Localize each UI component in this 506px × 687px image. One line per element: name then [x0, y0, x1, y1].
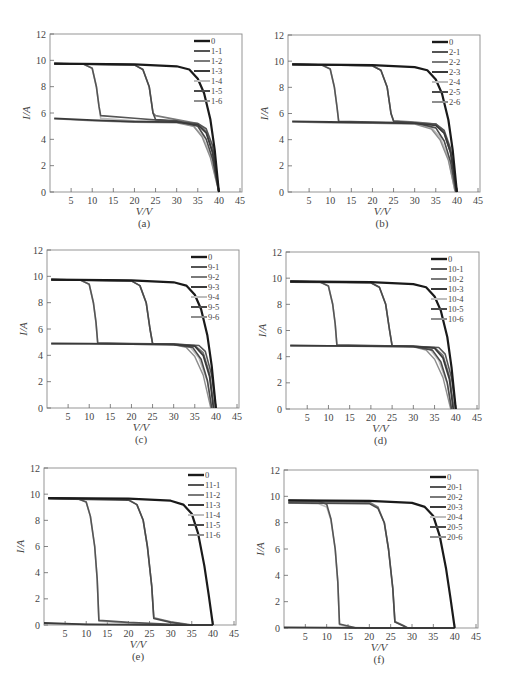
x-axis-label: V/V [136, 205, 154, 217]
legend-label: 1-1 [211, 46, 222, 56]
panel-caption: (d) [374, 434, 387, 447]
x-tick-label: 30 [172, 195, 182, 206]
legend-label: 20-6 [447, 532, 463, 542]
x-tick-label: 30 [166, 628, 176, 639]
legend-label: 20-3 [447, 502, 463, 512]
y-axis-label: I/A [256, 324, 268, 339]
x-tick-label: 10 [325, 195, 335, 206]
legend-label: 1-2 [211, 56, 222, 66]
series-line-20-5 [288, 503, 407, 628]
legend-label: 1-5 [211, 86, 222, 96]
y-tick-label: 12 [30, 463, 40, 474]
legend-label: 10-6 [448, 314, 464, 324]
y-tick-label: 6 [35, 541, 40, 552]
y-tick-label: 6 [277, 325, 282, 336]
x-tick-label: 45 [473, 195, 483, 206]
x-tick-label: 35 [187, 628, 197, 639]
x-tick-label: 10 [87, 195, 97, 206]
x-tick-label: 15 [105, 411, 115, 422]
x-tick-label: 35 [428, 631, 438, 642]
x-tick-label: 15 [102, 628, 112, 639]
x-tick-label: 5 [303, 631, 308, 642]
x-tick-label: 30 [410, 195, 420, 206]
y-tick-label: 12 [36, 29, 46, 40]
y-tick-label: 0 [279, 187, 284, 198]
series-line-20-4 [288, 503, 356, 628]
y-tick-label: 10 [270, 491, 280, 502]
y-tick-label: 8 [277, 299, 282, 310]
series-line-11-1 [48, 498, 187, 625]
x-tick-label: 5 [69, 195, 74, 206]
legend-label: 11-4 [205, 510, 221, 520]
y-tick-label: 12 [270, 465, 280, 476]
y-tick-label: 0 [275, 623, 280, 634]
legend-label: 0 [448, 254, 452, 264]
legend-label: 0 [205, 470, 209, 480]
x-axis-label: V/V [372, 422, 390, 434]
legend: 020-120-220-320-420-520-6 [430, 472, 463, 542]
y-tick-label: 8 [279, 82, 284, 93]
y-tick-label: 12 [274, 30, 284, 41]
y-tick-label: 6 [38, 324, 43, 335]
y-axis-label: I/A [17, 322, 29, 337]
x-axis-label: V/V [371, 641, 389, 653]
y-tick-label: 6 [279, 108, 284, 119]
y-tick-label: 10 [36, 55, 46, 66]
legend-label: 2-5 [449, 87, 460, 97]
legend-label: 20-5 [447, 522, 463, 532]
y-tick-label: 8 [275, 517, 280, 528]
x-axis-label: V/V [133, 421, 151, 433]
y-tick-label: 4 [35, 567, 40, 578]
y-tick-label: 4 [41, 134, 46, 145]
series-line-2-3 [292, 121, 457, 192]
y-tick-label: 8 [38, 297, 43, 308]
legend-label: 11-5 [205, 520, 220, 530]
y-axis-label: I/A [258, 107, 270, 122]
x-tick-label: 40 [452, 195, 462, 206]
series-line-10-3 [290, 346, 453, 410]
legend-label: 10-2 [448, 274, 464, 284]
x-tick-label: 10 [323, 412, 333, 423]
x-tick-label: 35 [430, 412, 440, 423]
legend-label: 9-3 [208, 282, 219, 292]
y-axis-label: I/A [20, 106, 32, 121]
chart-panel-d: 02468101251015202530354045I/AV/V(d)010-1… [256, 247, 482, 448]
x-tick-label: 45 [232, 411, 242, 422]
x-tick-label: 40 [451, 412, 461, 423]
x-tick-label: 5 [305, 412, 310, 423]
y-tick-label: 6 [275, 544, 280, 555]
x-tick-label: 15 [345, 412, 355, 423]
legend-label: 1-4 [211, 76, 223, 86]
x-tick-label: 30 [408, 412, 418, 423]
x-tick-label: 45 [472, 412, 482, 423]
x-tick-label: 5 [307, 195, 312, 206]
y-tick-label: 2 [41, 160, 46, 171]
series-line-20-1 [288, 500, 356, 628]
legend-label: 10-5 [448, 304, 464, 314]
chart-panel-f: 02468101251015202530354045I/AV/V(f)020-1… [254, 465, 481, 667]
y-tick-label: 8 [41, 81, 46, 92]
x-tick-label: 5 [63, 628, 68, 639]
legend-label: 11-1 [205, 480, 220, 490]
x-tick-label: 45 [229, 628, 239, 639]
legend: 010-110-210-310-410-510-6 [431, 254, 464, 324]
panel-caption: (f) [374, 653, 385, 666]
legend-label: 10-1 [448, 264, 464, 274]
y-tick-label: 2 [275, 596, 280, 607]
series-line-9-6 [51, 344, 211, 408]
x-tick-label: 35 [190, 411, 200, 422]
legend-label: 11-6 [205, 530, 220, 540]
y-tick-label: 2 [279, 160, 284, 171]
chart-panel-b: 02468101251015202530354045I/AV/V(b)02-12… [258, 30, 483, 231]
legend-label: 2-4 [449, 77, 461, 87]
y-tick-label: 0 [277, 404, 282, 415]
series-line-11-4 [48, 498, 187, 625]
series-line-1-3 [54, 118, 219, 192]
legend: 011-111-211-311-411-511-6 [188, 470, 221, 540]
legend-label: 11-3 [205, 500, 220, 510]
legend-label: 10-4 [448, 294, 464, 304]
legend-label: 9-4 [208, 292, 220, 302]
legend-label: 2-2 [449, 57, 460, 67]
panel-caption: (e) [132, 650, 145, 663]
y-tick-label: 10 [272, 273, 282, 284]
